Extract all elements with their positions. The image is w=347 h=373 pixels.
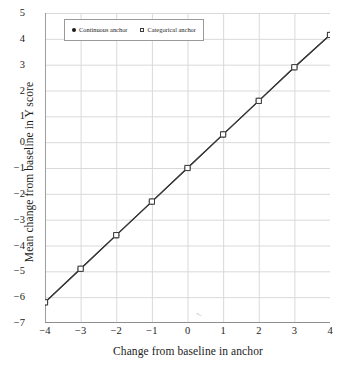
y-tick-label: −5 <box>3 266 25 277</box>
x-axis-title: Change from baseline in anchor <box>45 345 331 357</box>
chart-figure: Mean change from baseline in Y score Cha… <box>0 0 347 373</box>
x-tick-label: 3 <box>284 326 304 337</box>
chart-legend: Continuous anchor Categorical anchor <box>64 19 204 41</box>
x-tick-label: 1 <box>213 326 233 337</box>
y-tick-label: 1 <box>3 111 25 122</box>
y-tick-label: 0 <box>3 137 25 148</box>
y-tick-label: −1 <box>3 163 25 174</box>
x-tick-label: −1 <box>142 326 162 337</box>
y-tick-label: −3 <box>3 215 25 226</box>
x-tick-label: −3 <box>71 326 91 337</box>
x-tick-label: 4 <box>320 326 340 337</box>
y-tick-label: 3 <box>3 60 25 71</box>
legend-entry-continuous: Continuous anchor <box>72 27 127 33</box>
y-tick-label: −6 <box>3 292 25 303</box>
x-tick-label: −2 <box>106 326 126 337</box>
hollow-square-marker-icon <box>140 28 144 32</box>
plot-svg <box>45 13 330 323</box>
filled-circle-marker-icon <box>72 28 76 32</box>
y-tick-label: −7 <box>3 318 25 329</box>
y-tick-label: −4 <box>3 241 25 252</box>
x-tick-label: 0 <box>178 326 198 337</box>
legend-label-categorical: Categorical anchor <box>147 27 195 33</box>
legend-entry-categorical: Categorical anchor <box>140 27 195 33</box>
x-tick-label: −4 <box>35 326 55 337</box>
y-tick-label: 5 <box>3 8 25 19</box>
y-tick-label: −2 <box>3 189 25 200</box>
x-tick-label: 2 <box>249 326 269 337</box>
plot-area: Continuous anchor Categorical anchor <box>45 13 330 323</box>
y-tick-label: 4 <box>3 34 25 45</box>
y-tick-label: 2 <box>3 86 25 97</box>
legend-label-continuous: Continuous anchor <box>79 27 127 33</box>
